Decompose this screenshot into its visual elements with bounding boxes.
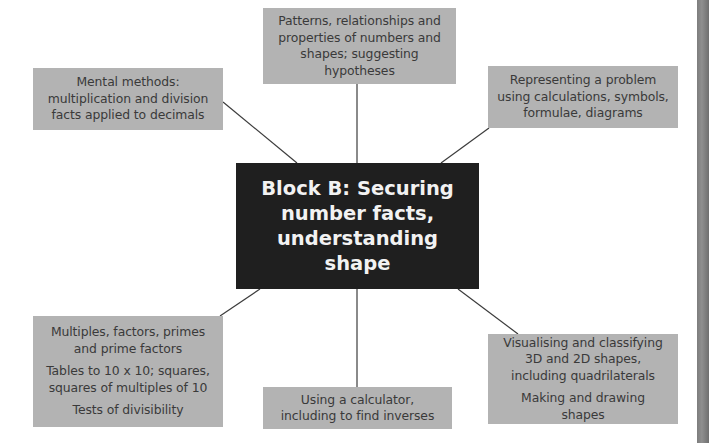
connector-bottom-left [220,289,260,316]
node-patterns-relationships: Patterns, relationships and properties o… [263,8,456,84]
connector-bottom-right [458,289,518,334]
node-mental-methods: Mental methods: multiplication and divis… [33,68,223,130]
node-text: Representing a problem using calculation… [494,72,672,122]
node-text: Mental methods: multiplication and divis… [47,74,209,124]
node-text: Patterns, relationships and properties o… [277,13,442,79]
node-representing-problem: Representing a problem using calculation… [488,66,678,128]
page-edge-bar [697,0,709,443]
central-topic-text: Block B: Securing number facts, understa… [256,176,459,276]
node-text: Tables to 10 x 10; squares, squares of m… [39,363,217,396]
node-using-calculator: Using a calculator, including to find in… [263,387,452,429]
node-multiples-factors: Multiples, factors, primes and prime fac… [33,316,223,427]
connector-top-left [223,102,297,163]
mind-map-canvas: Block B: Securing number facts, understa… [0,0,709,443]
node-text: Using a calculator, including to find in… [277,392,438,425]
node-text: Visualising and classifying 3D and 2D sh… [498,335,668,385]
node-text: Making and drawing shapes [498,390,668,423]
central-topic: Block B: Securing number facts, understa… [236,163,479,289]
connector-top-right [441,128,489,163]
node-text: Multiples, factors, primes and prime fac… [39,324,217,357]
node-text: Tests of divisibility [73,402,184,419]
node-visualising-shapes: Visualising and classifying 3D and 2D sh… [488,334,678,424]
